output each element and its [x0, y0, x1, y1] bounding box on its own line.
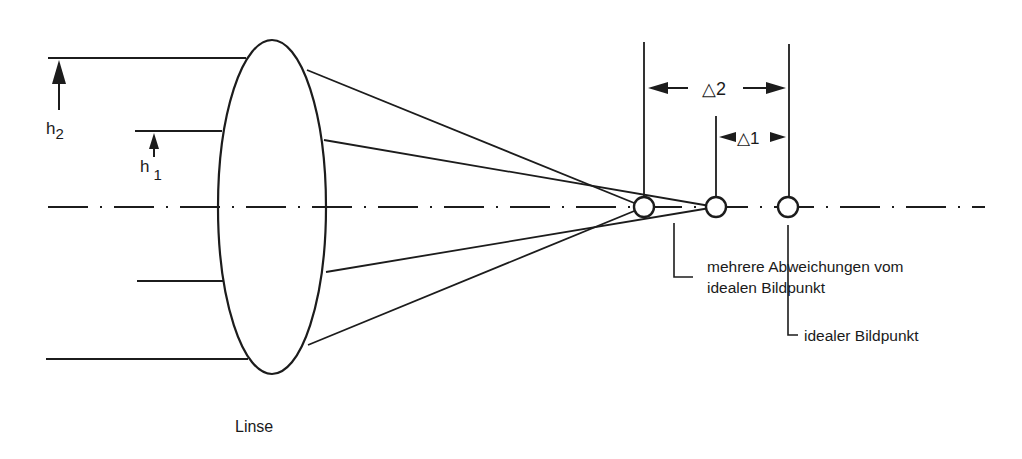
image-point-outer-rays — [634, 197, 654, 217]
delta2-label: △2 — [702, 79, 726, 99]
refracted-ray-inner-top — [324, 140, 716, 207]
image-point-inner-rays — [706, 197, 726, 217]
ideal-point-label: idealer Bildpunkt — [804, 327, 919, 344]
delta1-label: △1 — [737, 129, 759, 148]
deviations-leader-line — [674, 223, 693, 277]
deviations-label-line1: mehrere Abweichungen vom — [707, 258, 903, 275]
diagram-canvas: h2 h1 △2 △1 mehrere Abweichungen vom ide… — [0, 0, 1022, 459]
delta1-right-arrow-icon — [770, 132, 786, 142]
h2-arrowhead-icon — [52, 60, 66, 84]
refracted-ray-inner-bottom — [326, 207, 716, 272]
refracted-ray-outer-bottom — [308, 207, 644, 345]
deviations-label-line2: idealen Bildpunkt — [707, 279, 826, 296]
delta1-left-arrow-icon — [719, 132, 736, 142]
ideal-image-point — [778, 197, 798, 217]
lens-label: Linse — [235, 418, 273, 435]
h2-label: h2 — [46, 119, 64, 142]
h1-label: h1 — [140, 157, 162, 183]
delta2-right-arrow-icon — [766, 82, 786, 94]
h1-arrowhead-icon — [149, 133, 159, 149]
